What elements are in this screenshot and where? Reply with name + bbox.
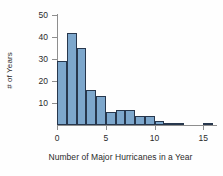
histogram-bar xyxy=(203,123,213,125)
x-tick-label: 0 xyxy=(47,133,67,143)
y-tick-label: 30 xyxy=(0,54,48,64)
histogram-bar xyxy=(155,121,165,125)
histogram-bar xyxy=(116,110,126,125)
histogram-bar xyxy=(86,90,96,125)
x-tick-mark xyxy=(155,125,156,130)
y-tick-label: 20 xyxy=(0,76,48,86)
histogram-bar xyxy=(106,112,116,125)
x-tick-mark xyxy=(203,125,204,130)
y-axis-label: # of Years xyxy=(0,0,18,140)
x-axis-label: Number of Major Hurricanes in a Year xyxy=(18,152,223,162)
histogram-bar xyxy=(135,116,145,125)
x-tick-mark xyxy=(106,125,107,130)
y-tick-label: 50 xyxy=(0,10,48,20)
x-tick-label: 15 xyxy=(193,133,213,143)
histogram-bar xyxy=(174,123,184,125)
y-tick-label: 10 xyxy=(0,98,48,108)
x-axis-line xyxy=(57,125,217,126)
histogram-bar xyxy=(57,61,67,125)
histogram-bar xyxy=(145,116,155,125)
x-tick-label: 5 xyxy=(96,133,116,143)
histogram-bar xyxy=(125,110,135,125)
histogram-bar xyxy=(77,48,87,125)
y-tick-label: 40 xyxy=(0,32,48,42)
x-tick-label: 10 xyxy=(145,133,165,143)
histogram-bar xyxy=(96,96,106,125)
histogram-bars xyxy=(57,15,217,125)
histogram-figure: # of Years 1020304050 051015 Number of M… xyxy=(0,0,223,176)
histogram-bar xyxy=(67,33,77,125)
x-tick-mark xyxy=(57,125,58,130)
histogram-bar xyxy=(164,123,174,125)
